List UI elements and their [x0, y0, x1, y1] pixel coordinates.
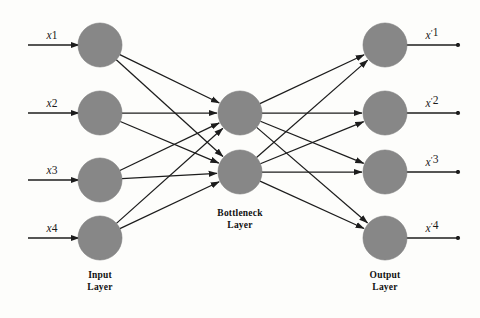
bottleneck-node-2	[218, 150, 262, 194]
input-node-2	[78, 91, 122, 135]
output-label-1: x′1	[425, 26, 439, 42]
input-label-4: x4	[46, 222, 58, 234]
input-label-3: x3	[46, 164, 58, 176]
input-node-3	[78, 158, 122, 202]
encoder-edge-i4-b2	[120, 182, 219, 229]
input-arrow-group	[28, 45, 79, 238]
decoder-edge-group	[257, 55, 368, 229]
encoder-edge-i1-b1	[120, 55, 220, 103]
output-label-2: x′2	[425, 94, 439, 110]
input-node-1	[78, 23, 122, 67]
output-node-4	[363, 216, 407, 260]
output-label-3: x′3	[425, 153, 439, 169]
neural-network-diagram: x1x2x3x4x′1x′2x′3x′4InputLayerBottleneck…	[0, 0, 480, 318]
bottleneck-layer-caption-line1: Bottleneck	[217, 208, 263, 218]
encoder-edge-i3-b1	[120, 123, 219, 171]
output-label-4: x′4	[425, 219, 439, 235]
input-label-2: x2	[46, 97, 58, 109]
input-layer-caption-line1: Input	[88, 270, 112, 280]
output-node-1	[363, 23, 407, 67]
network-svg: x1x2x3x4x′1x′2x′3x′4InputLayerBottleneck…	[0, 0, 480, 318]
decoder-edge-b2-o4	[260, 181, 364, 228]
decoder-edge-b1-o1	[260, 55, 364, 104]
output-node-2	[363, 91, 407, 135]
output-node-3	[363, 150, 407, 194]
input-node-4	[78, 216, 122, 260]
output-layer-caption-line2: Layer	[372, 282, 398, 292]
bottleneck-node-1	[218, 91, 262, 135]
input-label-1: x1	[46, 29, 58, 41]
encoder-edge-i2-b2	[120, 122, 219, 164]
input-layer-caption-line2: Layer	[87, 282, 113, 292]
bottleneck-layer-caption-line2: Layer	[227, 220, 253, 230]
encoder-edge-group	[116, 55, 223, 229]
output-arrow-group	[406, 45, 458, 238]
output-layer-caption-line1: Output	[370, 270, 401, 280]
